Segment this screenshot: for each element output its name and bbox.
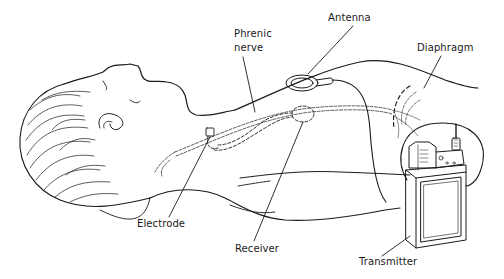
label-electrode: Electrode: [137, 218, 185, 230]
diaphragm: [392, 86, 420, 138]
label-diaphragm: Diaphragm: [417, 42, 474, 54]
label-phrenic-line2: nerve: [234, 42, 263, 54]
label-antenna: Antenna: [328, 12, 371, 24]
antenna-cable: [332, 80, 386, 202]
label-phrenic-line1: Phrenic: [234, 28, 272, 40]
hair-strokes: [26, 91, 118, 202]
electrode: [206, 128, 218, 149]
leader-lines: [169, 26, 441, 256]
receiver: [292, 106, 314, 122]
label-transmitter: Transmitter: [359, 256, 417, 268]
transmitter-cable: [401, 123, 483, 186]
lead-wires: [214, 113, 292, 150]
label-receiver: Receiver: [235, 243, 279, 255]
transmitter-device: [406, 124, 466, 248]
